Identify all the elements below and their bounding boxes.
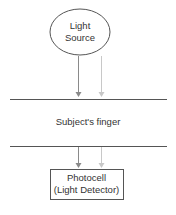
light-source-line2: Source [50,32,110,44]
lower-arrow-light [99,147,105,168]
photocell-label: Photocell (Light Detector) [50,172,123,196]
lower-arrow-dark [76,147,82,168]
light-source-label: Light Source [50,20,110,44]
finger-label: Subject's finger [40,116,136,128]
upper-arrow-light [99,56,105,97]
upper-arrow-dark [76,56,82,97]
photocell-line2: (Light Detector) [50,184,123,196]
light-source-line1: Light [50,20,110,32]
photocell-line1: Photocell [50,172,123,184]
